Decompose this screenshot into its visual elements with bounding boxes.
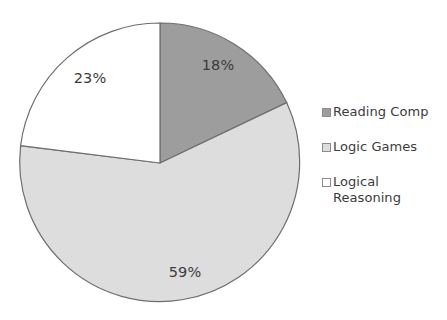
legend-swatch-icon-reading-comp <box>322 108 331 117</box>
legend-item-logical-reasoning[interactable]: Logical Reasoning <box>322 174 447 206</box>
legend-label-logic-games: Logic Games <box>333 139 417 155</box>
legend-item-logic-games[interactable]: Logic Games <box>322 139 447 155</box>
legend-swatch-icon-logical-reasoning <box>322 178 331 187</box>
legend-label-reading-comp: Reading Comp <box>333 104 428 120</box>
slice-label-reading-comp: 18% <box>202 57 235 73</box>
pie-slice-logical-reasoning[interactable] <box>21 23 160 163</box>
chart-legend: Reading Comp Logic Games Logical Reasoni… <box>322 104 447 206</box>
slice-label-logical-reasoning: 23% <box>74 70 107 86</box>
legend-swatch-icon-logic-games <box>322 143 331 152</box>
slice-label-logic-games: 59% <box>169 264 202 280</box>
pie-chart-figure: 18% 59% 23% Reading Comp Logic Games Log… <box>0 0 447 320</box>
pie-svg: 18% 59% 23% <box>0 0 320 320</box>
legend-item-reading-comp[interactable]: Reading Comp <box>322 104 447 120</box>
pie-plot-area: 18% 59% 23% <box>0 0 320 320</box>
legend-label-logical-reasoning: Logical Reasoning <box>333 174 401 206</box>
